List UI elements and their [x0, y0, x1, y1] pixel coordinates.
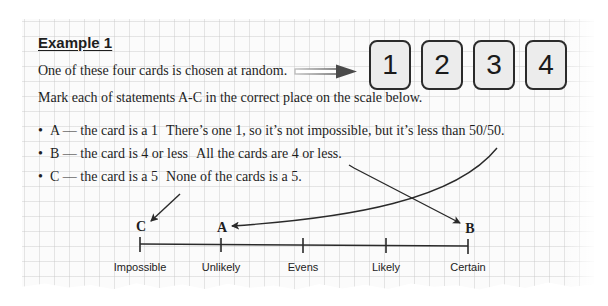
- scale-label-certain: Certain: [450, 261, 485, 273]
- arrow-b-icon: [349, 165, 460, 223]
- arrow-to-cards-icon: [295, 65, 357, 79]
- probability-scale: [140, 237, 468, 254]
- arrow-a-icon: [232, 148, 497, 226]
- scale-label-unlikely: Unlikely: [202, 261, 241, 273]
- arrow-c-icon: [151, 194, 180, 221]
- mark-a: A: [217, 220, 227, 236]
- scale-label-impossible: Impossible: [114, 261, 167, 273]
- scale-label-evens: Evens: [288, 261, 319, 273]
- mark-b: B: [465, 221, 474, 237]
- mark-c: C: [136, 219, 146, 235]
- scale-label-likely: Likely: [372, 261, 400, 273]
